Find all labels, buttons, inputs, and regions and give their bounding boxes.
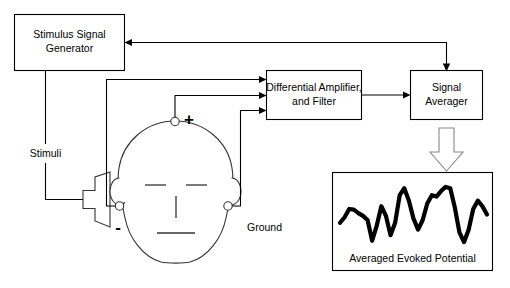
amplifier-to-averager-connector	[362, 92, 411, 99]
minus-sign-label: -	[115, 218, 121, 237]
ground-label: Ground	[247, 221, 282, 233]
differential-amplifier-label-line1: Differential Amplifier,	[266, 81, 362, 93]
stimuli-line-lower	[46, 163, 84, 200]
evoked-potential-diagram: Stimulus Signal Generator Differential A…	[0, 0, 510, 288]
stimulus-signal-generator-label-line2: Generator	[46, 42, 94, 54]
electrode-icon-left[interactable]	[115, 202, 123, 210]
signal-averager-box[interactable]: Signal Averager	[411, 71, 483, 120]
electrode-icon-right[interactable]	[224, 202, 232, 210]
amp-input-arrowhead-3-icon	[259, 107, 267, 114]
signal-averager-label-line1: Signal	[432, 81, 461, 93]
differential-amplifier-label-line2: and Filter	[292, 95, 336, 107]
feedback-trigger-line	[130, 43, 447, 71]
stimuli-connector: Stimuli	[30, 71, 83, 200]
stimulus-signal-generator-label-line1: Stimulus Signal	[33, 28, 105, 40]
diagram-canvas: Stimulus Signal Generator Differential A…	[0, 0, 510, 288]
amplifier-to-averager-arrowhead-icon	[403, 92, 411, 99]
signal-averager-label-line2: Averager	[425, 95, 468, 107]
feedback-trigger-connector	[125, 39, 451, 72]
waveform-caption: Averaged Evoked Potential	[349, 252, 475, 264]
differential-amplifier-box[interactable]: Differential Amplifier, and Filter	[266, 71, 362, 120]
head-icon	[110, 121, 241, 263]
feedback-arrowhead-icon	[125, 39, 133, 46]
stimulus-signal-generator-box[interactable]: Stimulus Signal Generator	[15, 15, 125, 71]
stimuli-label: Stimuli	[30, 147, 62, 159]
plus-sign-label: +	[184, 110, 194, 129]
down-block-arrow-icon	[430, 128, 463, 171]
electrode-icon-top[interactable]	[171, 117, 179, 125]
amp-input-arrowhead-2-icon	[259, 92, 267, 99]
electrode-left-minus[interactable]: -	[115, 202, 124, 238]
averaged-evoked-potential-plot[interactable]: Averaged Evoked Potential	[333, 173, 493, 271]
